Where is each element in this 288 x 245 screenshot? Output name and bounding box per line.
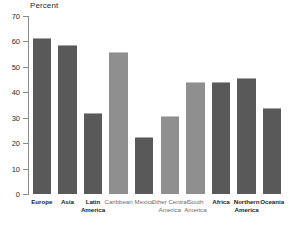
- y-tick-label: 0: [0, 190, 20, 199]
- y-tick-label: 50: [0, 62, 20, 71]
- y-tick-label: 20: [0, 139, 20, 148]
- y-tick-label: 40: [0, 88, 20, 97]
- bar: [161, 116, 179, 194]
- bar: [212, 82, 230, 194]
- bar: [186, 82, 204, 194]
- y-axis-title: Percent: [30, 1, 58, 10]
- bar: [263, 108, 281, 194]
- x-axis-label: Oceania: [254, 198, 288, 206]
- y-tick-label: 30: [0, 113, 20, 122]
- bar: [33, 38, 51, 194]
- bar-chart: Percent 010203040506070 EuropeAsiaLatin …: [0, 0, 288, 245]
- y-tick-mark: [23, 194, 29, 195]
- plot-area: [29, 16, 285, 194]
- bar: [58, 45, 76, 194]
- y-tick-label: 70: [0, 12, 20, 21]
- y-tick-label: 10: [0, 164, 20, 173]
- y-tick-label: 60: [0, 37, 20, 46]
- bar: [237, 78, 255, 194]
- bar: [84, 113, 102, 194]
- bar: [109, 52, 127, 194]
- bar: [135, 137, 153, 194]
